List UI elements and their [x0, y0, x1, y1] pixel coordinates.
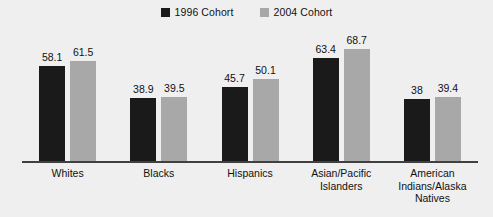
category-label: Whites — [52, 167, 84, 180]
category-label-line: Whites — [52, 167, 84, 180]
bars-wrap: 45.750.1 — [219, 0, 282, 161]
category-label: Hispanics — [227, 167, 273, 180]
bar-group: 58.161.5Whites — [36, 0, 99, 217]
bar-value-label: 50.1 — [255, 64, 275, 76]
category-label-line: Natives — [398, 192, 466, 205]
category-label-line: Asian/Pacific — [311, 167, 371, 180]
bar-value-label: 38 — [411, 84, 423, 96]
bars-wrap: 58.161.5 — [36, 0, 99, 161]
bar-2004[interactable]: 50.1 — [253, 79, 279, 161]
plot-area: 58.161.5Whites38.939.5Blacks45.750.1Hisp… — [0, 0, 493, 217]
category-label-line: Hispanics — [227, 167, 273, 180]
bars-wrap: 63.468.7 — [310, 0, 373, 161]
bars-wrap: 38.939.5 — [127, 0, 190, 161]
bar-1996[interactable]: 38 — [404, 99, 430, 161]
bar-1996[interactable]: 58.1 — [39, 66, 65, 161]
bar-value-label: 38.9 — [133, 83, 153, 95]
category-label-line: Indians/Alaska — [398, 180, 466, 193]
category-label-line: American — [398, 167, 466, 180]
bar-group: 63.468.7Asian/PacificIslanders — [310, 0, 373, 217]
category-label: Blacks — [143, 167, 174, 180]
bar-value-label: 61.5 — [73, 46, 93, 58]
bar-group: 38.939.5Blacks — [127, 0, 190, 217]
bar-2004[interactable]: 39.5 — [161, 97, 187, 161]
bar-2004[interactable]: 68.7 — [344, 49, 370, 161]
bar-group: 3839.4AmericanIndians/AlaskaNatives — [401, 0, 464, 217]
category-label-line: Islanders — [311, 180, 371, 193]
bar-value-label: 45.7 — [224, 72, 244, 84]
bar-value-label: 39.4 — [438, 82, 458, 94]
bar-1996[interactable]: 45.7 — [222, 87, 248, 161]
category-label: Asian/PacificIslanders — [311, 167, 371, 192]
bar-2004[interactable]: 39.4 — [435, 97, 461, 161]
bar-value-label: 68.7 — [346, 34, 366, 46]
category-label: AmericanIndians/AlaskaNatives — [398, 167, 466, 205]
bar-value-label: 58.1 — [42, 51, 62, 63]
bars-wrap: 3839.4 — [401, 0, 464, 161]
bar-value-label: 39.5 — [164, 82, 184, 94]
category-label-line: Blacks — [143, 167, 174, 180]
bar-group: 45.750.1Hispanics — [219, 0, 282, 217]
bar-value-label: 63.4 — [315, 43, 335, 55]
bar-1996[interactable]: 63.4 — [313, 58, 339, 161]
bar-2004[interactable]: 61.5 — [70, 61, 96, 161]
bar-1996[interactable]: 38.9 — [130, 98, 156, 161]
bar-chart: 1996 Cohort 2004 Cohort 58.161.5Whites38… — [0, 0, 493, 217]
